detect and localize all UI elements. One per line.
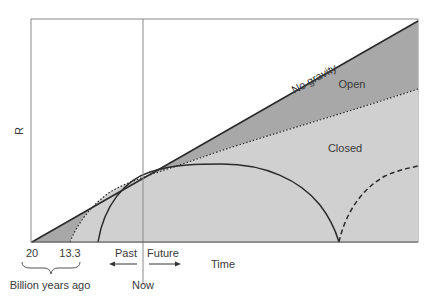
open-label: Open: [339, 78, 366, 90]
tick-13-3: 13.3: [59, 247, 80, 259]
x-axis-label: Time: [211, 258, 235, 270]
now-label: Now: [132, 279, 154, 291]
future-arrowhead-icon: [175, 262, 181, 267]
past-label: Past: [115, 247, 137, 259]
y-axis-label: R: [13, 127, 25, 135]
expansion-diagram: R No gravity Open Closed 20 13.3 Billion…: [0, 0, 431, 302]
past-arrowhead-icon: [109, 262, 115, 267]
brace-icon: [22, 262, 80, 274]
tick-20: 20: [26, 247, 38, 259]
closed-label: Closed: [328, 142, 362, 154]
billion-years-ago-label: Billion years ago: [10, 279, 91, 291]
future-label: Future: [147, 247, 179, 259]
